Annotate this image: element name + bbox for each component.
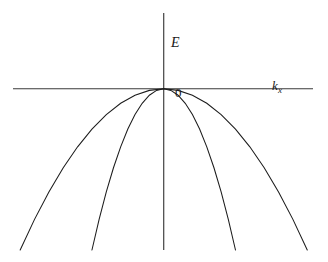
band-diagram-figure: E 0 kx xyxy=(0,0,328,262)
y-axis-label: E xyxy=(171,36,180,50)
x-axis-label-subscript: x xyxy=(278,85,282,95)
origin-label: 0 xyxy=(175,86,182,99)
x-axis-label: kx xyxy=(272,79,282,95)
plot-canvas xyxy=(0,0,328,262)
x-axis-label-symbol: k xyxy=(272,78,278,93)
